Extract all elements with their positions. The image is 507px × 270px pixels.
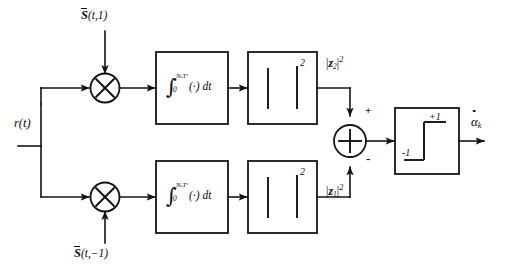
signal-label-z-lower: |z1|2 [326,184,343,199]
magnitude-squared-upper-box [248,52,317,124]
summing-junction-plus-sign: + [365,105,371,116]
signal-label-z-upper: |z2|2 [326,56,343,71]
wire-rt-to-lower-multiplier [41,146,89,197]
magnitude-squared-lower-box [248,161,317,233]
diagram-vector-layer [0,0,507,270]
reference-upper-label: S(t,1) [81,8,107,22]
integral-body-upper: (·) dt [189,80,211,92]
integral-lower-limit-lower: 0 [173,195,185,203]
integral-upper-limit-upper: NₛTᶜ [176,73,188,80]
received-signal-label: r(t) [14,117,31,130]
output-alpha-subscript: k [478,121,482,130]
reference-upper-symbol: S [81,8,88,22]
magnitude-squared-lower-exponent: 2 [300,167,305,177]
reference-lower-label: S(t,−1) [74,246,108,260]
multiplier-upper-symbol [91,74,120,103]
integral-limits-lower: NₛTᶜ0 [176,187,188,201]
decision-high-level-label: +1 [429,112,441,122]
z-upper-superscript: 2 [339,55,343,64]
output-label: αk [471,115,481,130]
summing-junction-symbol [334,125,366,157]
integral-lower-limit-upper: 0 [173,86,185,94]
decision-device-box [395,108,459,174]
decision-low-level-label: -1 [402,148,410,158]
output-alpha-symbol: α [471,115,478,128]
integral-limits-upper: NₛTᶜ0 [176,78,188,92]
magnitude-squared-upper-exponent: 2 [300,58,305,68]
reference-lower-symbol: S [74,246,81,260]
reference-upper-args: (t,1) [88,9,107,21]
integral-body-lower: (·) dt [189,189,211,201]
integral-upper-limit-lower: NₛTᶜ [176,182,188,189]
integrator-lower-expression: ∫NₛTᶜ0(·) dt [166,187,211,205]
block-diagram-canvas: S(t,1) S(t,−1) r(t) ∫NₛTᶜ0(·) dt ∫NₛTᶜ0(… [0,0,507,270]
integrator-upper-expression: ∫NₛTᶜ0(·) dt [166,78,211,96]
multiplier-lower-symbol [91,183,120,212]
output-alpha-letter: α [471,114,478,129]
z-lower-superscript: 2 [339,183,343,192]
received-signal-text: r(t) [14,116,31,130]
reference-lower-args: (t,−1) [81,247,108,259]
summing-junction-minus-sign: - [366,152,370,165]
wire-upper-mag-to-summer [317,88,350,116]
